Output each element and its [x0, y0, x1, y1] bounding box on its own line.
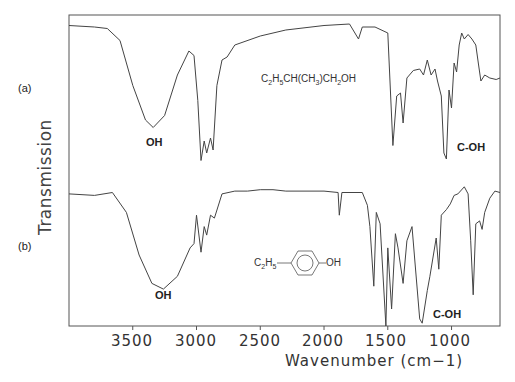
x-axis-ticks: [133, 326, 452, 330]
spectrum-a-line: [69, 24, 500, 161]
coh-annotation-b: C-OH: [433, 308, 461, 320]
series-a-label: (a): [18, 82, 31, 94]
x-tick-3500: 3500: [111, 332, 153, 350]
coh-annotation-a: C-OH: [457, 141, 485, 153]
oh-annotation-b: OH: [155, 289, 172, 301]
ir-spectra-figure: [0, 0, 515, 382]
x-tick-3000: 3000: [175, 332, 217, 350]
oh-annotation-a: OH: [146, 136, 163, 148]
formula-b-ethyl: C2H5: [254, 257, 276, 270]
formula-a: C2H5CH(CH3)CH2OH: [261, 73, 356, 86]
x-tick-1500: 1500: [365, 332, 407, 350]
benzene-ring-structure: [277, 251, 326, 275]
plot-frame: [69, 15, 500, 326]
series-b-label: (b): [18, 240, 31, 252]
spectrum-b-line: [69, 187, 500, 326]
x-tick-1000: 1000: [429, 332, 471, 350]
y-axis-label: Transmission: [35, 125, 55, 235]
formula-b-hydroxyl: OH: [326, 257, 341, 268]
x-tick-2000: 2000: [302, 332, 344, 350]
x-axis-label: Wavenumber (cm−1): [285, 352, 463, 370]
x-tick-2500: 2500: [239, 332, 281, 350]
